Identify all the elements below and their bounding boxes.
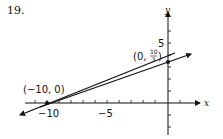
x-axis-label: x	[204, 98, 209, 108]
point-label-x-intercept: (−10, 0)	[23, 84, 65, 95]
fraction-numerator: 10	[150, 48, 158, 55]
point-label-y-intercept: (0, 10 3 )	[133, 48, 162, 63]
fraction-denominator: 3	[152, 56, 156, 63]
x-tick-label-neg5: −5	[98, 108, 113, 119]
line-chart: −10 −5 5 x y (−10, 0) (0, 10 3 )	[0, 0, 223, 139]
svg-text:): )	[158, 51, 162, 62]
y-tick-label-5: 5	[158, 38, 164, 49]
y-axis-label: y	[164, 5, 171, 15]
point-y-intercept	[166, 60, 170, 64]
x-tick-label-neg10: −10	[38, 108, 59, 119]
svg-text:(0,: (0,	[133, 51, 146, 62]
point-x-intercept	[45, 101, 49, 105]
